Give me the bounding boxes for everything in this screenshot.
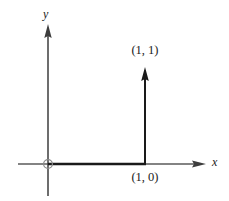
point-label-1-0: (1, 0) <box>118 171 172 184</box>
y-axis-arrowhead <box>44 24 51 38</box>
point-label-1-1: (1, 1) <box>120 44 170 57</box>
x-axis-arrowhead <box>192 160 206 167</box>
coordinate-diagram: y x (1, 1) (1, 0) <box>0 0 229 201</box>
y-axis-label: y <box>43 8 48 20</box>
diagram-canvas <box>0 0 229 201</box>
vertical-vector-arrowhead <box>141 67 149 81</box>
x-axis-label: x <box>212 156 217 168</box>
